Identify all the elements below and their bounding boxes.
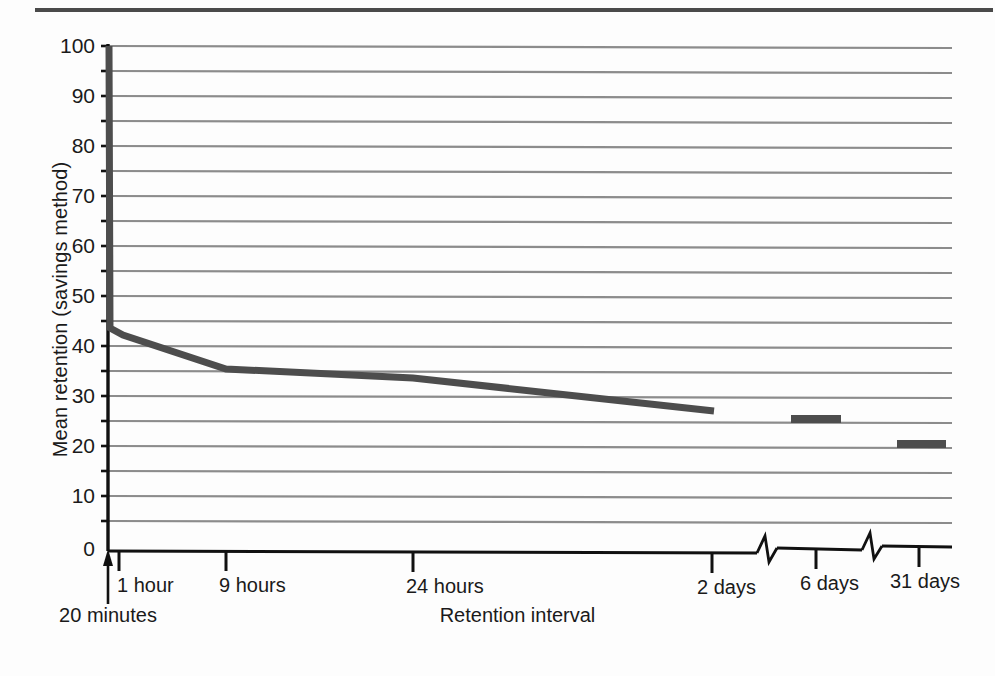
y-tick-label: 80 xyxy=(72,134,95,157)
x-tick-label-2-days: 2 days xyxy=(697,576,756,598)
x-axis-title-text: Retention interval xyxy=(440,604,596,626)
x-tick-label-6-days: 6 days xyxy=(800,572,859,594)
x-tick-label-31-days: 31 days xyxy=(890,570,960,592)
detached-point-markers xyxy=(791,415,946,448)
x-tick-label-1-hour: 1 hour xyxy=(117,574,174,596)
y-tick-label: 70 xyxy=(72,184,95,207)
figure-page: Mean retention (savings method) xyxy=(0,0,995,676)
y-tick-label: 0 xyxy=(83,537,95,560)
chart-plot-area: 100 90 80 70 60 50 40 30 20 10 0 xyxy=(0,0,995,676)
twenty-minutes-arrow xyxy=(103,549,113,604)
x-axis xyxy=(108,533,952,573)
marker-6-days xyxy=(791,415,841,423)
x-axis-title: Retention interval xyxy=(0,604,995,627)
y-tick-label: 20 xyxy=(72,434,95,457)
y-tick-label: 40 xyxy=(72,334,95,357)
y-tick-label: 50 xyxy=(72,284,95,307)
gridlines xyxy=(108,46,952,523)
forgetting-curve-figure: Mean retention (savings method) xyxy=(0,0,995,676)
y-tick-label: 10 xyxy=(72,484,95,507)
y-tick-label: 30 xyxy=(72,384,95,407)
marker-31-days xyxy=(897,440,946,448)
x-tick-label-24-hours: 24 hours xyxy=(406,575,484,597)
retention-curve xyxy=(109,46,714,411)
y-tick-label: 90 xyxy=(72,84,95,107)
y-tick-label: 100 xyxy=(60,34,95,57)
y-tick-label: 60 xyxy=(72,234,95,257)
x-tick-label-9-hours: 9 hours xyxy=(219,574,286,596)
y-tick-labels: 100 90 80 70 60 50 40 30 20 10 0 xyxy=(60,34,95,560)
